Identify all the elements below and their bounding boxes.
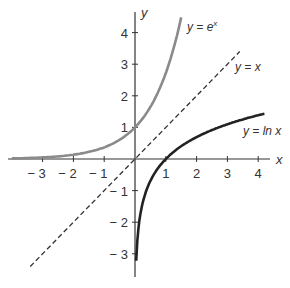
x-tick-label: 1 xyxy=(162,166,169,181)
log-label: y = ln x xyxy=(242,124,282,138)
y-axis-label: y xyxy=(140,5,149,20)
x-tick-label: − 2 xyxy=(58,166,76,181)
x-tick-label: 3 xyxy=(224,166,231,181)
y-tick-label: − 3 xyxy=(110,247,128,262)
exp-label: y = ex xyxy=(186,19,218,34)
x-axis-label: x xyxy=(275,152,283,167)
y-tick-label: − 1 xyxy=(110,184,128,199)
x-tick-label: 2 xyxy=(193,166,200,181)
y-tick-label: 2 xyxy=(121,89,128,104)
y-tick-label: 4 xyxy=(121,26,128,41)
identity-label: y = x xyxy=(234,60,262,74)
x-tick-label: − 1 xyxy=(89,166,107,181)
y-tick-label: − 2 xyxy=(110,215,128,230)
function-graph: − 3− 2− 11234 − 3− 2− 11234 x y y = ex y… xyxy=(0,0,290,288)
x-ticks: − 3− 2− 11234 xyxy=(27,156,261,181)
x-tick-label: 4 xyxy=(255,166,262,181)
x-tick-label: − 3 xyxy=(27,166,45,181)
y-tick-label: 3 xyxy=(121,57,128,72)
axes: − 3− 2− 11234 − 3− 2− 11234 x y xyxy=(8,5,283,277)
